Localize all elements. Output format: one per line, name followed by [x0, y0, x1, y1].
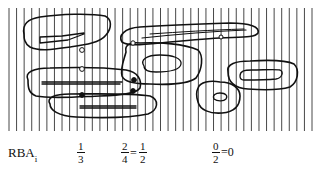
filled-marker — [132, 78, 137, 83]
fraction-3: 0 2 — [212, 141, 220, 165]
fraction-3-numerator: 0 — [212, 141, 220, 153]
open-marker — [219, 35, 223, 39]
inner-loop-bottom-right — [213, 93, 226, 101]
ribbon-grid-diagram — [0, 0, 319, 132]
row-label-text: RBA — [8, 145, 35, 160]
inner-loop-right-lower — [240, 70, 282, 80]
row-label-subscript: i — [35, 154, 38, 164]
fraction-1-numerator: 1 — [77, 141, 85, 153]
open-marker — [131, 41, 135, 45]
fraction-3-result: 0 — [228, 145, 234, 159]
fraction-1-denominator: 3 — [78, 153, 84, 165]
fraction-2-denominator: 4 — [122, 153, 128, 165]
fraction-2: 2 4 — [121, 141, 129, 165]
filled-marker — [80, 93, 85, 98]
inner-stroke-bottom-left — [80, 106, 136, 108]
equals-sign-3: =0 — [221, 146, 234, 158]
filled-marker — [131, 89, 136, 94]
fraction-2-numerator: 2 — [121, 141, 129, 153]
fraction-2-reduced-denominator: 2 — [140, 153, 146, 165]
contour-right-lower — [228, 60, 298, 89]
equals-sign-2: = — [130, 147, 137, 159]
fraction-2-reduced: 1 2 — [139, 141, 147, 165]
fraction-2-reduced-numerator: 1 — [139, 141, 147, 153]
contour-top-left — [24, 14, 111, 50]
equals-sign-3-symbol: = — [221, 145, 228, 159]
open-marker — [80, 48, 85, 53]
fraction-3-denominator: 2 — [213, 153, 219, 165]
row-label: RBAi — [8, 146, 37, 159]
fraction-1: 1 3 — [77, 141, 85, 165]
open-marker — [80, 67, 85, 72]
contour-bottom-right — [197, 81, 241, 113]
